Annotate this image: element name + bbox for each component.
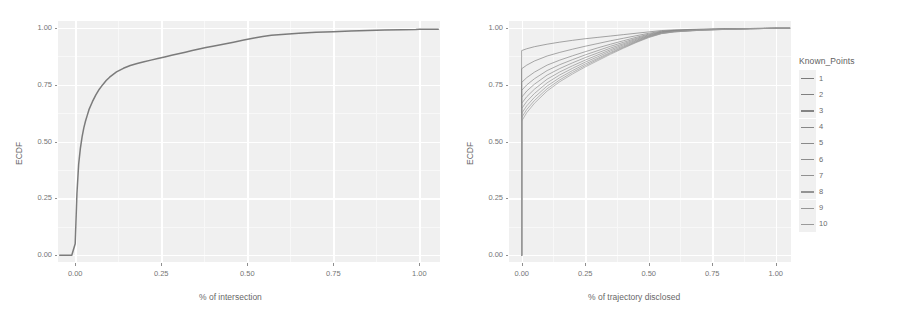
y-tick-mark xyxy=(55,198,58,199)
legend-key-swatch xyxy=(799,86,816,102)
legend-item-label: 2 xyxy=(819,90,823,99)
y-axis-title-right: ECDF xyxy=(465,142,475,165)
x-tick-label: 0.50 xyxy=(634,269,664,278)
y-tick-label: 0.75 xyxy=(477,80,503,89)
x-tick-mark xyxy=(161,263,162,266)
data-curve xyxy=(522,28,790,255)
legend-item[interactable]: 3 xyxy=(799,102,855,118)
legend-item[interactable]: 10 xyxy=(799,216,855,232)
legend-items: 12345678910 xyxy=(799,70,855,232)
legend-item[interactable]: 8 xyxy=(799,183,855,199)
legend-line-icon xyxy=(801,127,814,128)
x-tick-label: 0.50 xyxy=(232,269,262,278)
x-tick-mark xyxy=(247,263,248,266)
legend-item-label: 7 xyxy=(819,171,823,180)
y-tick-label: 0.00 xyxy=(477,250,503,259)
x-tick-label: 0.75 xyxy=(318,269,348,278)
y-tick-mark xyxy=(506,255,509,256)
legend-key-swatch xyxy=(799,183,816,199)
legend-item-label: 4 xyxy=(819,122,823,131)
data-curve xyxy=(522,28,790,255)
x-tick-label: 0.00 xyxy=(60,269,90,278)
x-tick-mark xyxy=(585,263,586,266)
y-tick-mark xyxy=(506,85,509,86)
legend-line-icon xyxy=(801,208,814,209)
legend: Known_Points 12345678910 xyxy=(799,56,855,232)
x-tick-label: 0.25 xyxy=(570,269,600,278)
x-tick-label: 0.00 xyxy=(507,269,537,278)
x-tick-label: 1.00 xyxy=(761,269,791,278)
data-curve xyxy=(522,28,790,255)
legend-key-swatch xyxy=(799,167,816,183)
x-tick-mark xyxy=(522,263,523,266)
data-curve xyxy=(522,28,790,255)
legend-line-icon xyxy=(801,143,814,144)
data-curve xyxy=(522,28,790,255)
legend-key-swatch xyxy=(799,102,816,118)
y-tick-mark xyxy=(55,255,58,256)
y-tick-mark xyxy=(55,85,58,86)
data-curve xyxy=(522,28,790,255)
legend-item-label: 6 xyxy=(819,155,823,164)
legend-key-swatch xyxy=(799,216,816,232)
legend-line-icon xyxy=(801,94,814,95)
legend-line-icon xyxy=(801,159,814,160)
legend-item[interactable]: 7 xyxy=(799,167,855,183)
x-tick-label: 0.75 xyxy=(697,269,727,278)
x-tick-mark xyxy=(776,263,777,266)
x-tick-mark xyxy=(333,263,334,266)
legend-item[interactable]: 9 xyxy=(799,200,855,216)
x-tick-label: 0.25 xyxy=(146,269,176,278)
legend-line-icon xyxy=(801,191,814,192)
legend-item[interactable]: 4 xyxy=(799,119,855,135)
x-tick-mark xyxy=(419,263,420,266)
x-tick-label: 1.00 xyxy=(404,269,434,278)
legend-title: Known_Points xyxy=(799,56,855,66)
y-tick-label: 1.00 xyxy=(477,23,503,32)
legend-key-swatch xyxy=(799,119,816,135)
y-tick-mark xyxy=(506,142,509,143)
ecdf-figure: 0.000.250.500.751.000.000.250.500.751.00… xyxy=(0,0,902,317)
data-curve xyxy=(522,28,790,255)
y-tick-label: 1.00 xyxy=(26,23,52,32)
x-tick-mark xyxy=(649,263,650,266)
y-tick-label: 0.00 xyxy=(26,250,52,259)
y-tick-mark xyxy=(55,28,58,29)
legend-item[interactable]: 6 xyxy=(799,151,855,167)
panel-right: 0.000.250.500.751.000.000.250.500.751.00… xyxy=(451,0,902,317)
data-curve xyxy=(522,28,790,255)
legend-item-label: 9 xyxy=(819,203,823,212)
legend-item-label: 10 xyxy=(819,219,827,228)
x-axis-title-left: % of intersection xyxy=(199,292,262,302)
x-axis-title-right: % of trajectory disclosed xyxy=(588,292,680,302)
legend-item-label: 5 xyxy=(819,138,823,147)
y-tick-label: 0.25 xyxy=(26,193,52,202)
y-tick-mark xyxy=(55,142,58,143)
data-curve xyxy=(522,28,790,255)
data-curve xyxy=(522,28,790,255)
y-tick-mark xyxy=(506,28,509,29)
legend-line-icon xyxy=(801,110,814,111)
legend-key-swatch xyxy=(799,135,816,151)
data-curve xyxy=(60,29,439,255)
figure-root: 0.000.250.500.751.000.000.250.500.751.00… xyxy=(0,0,902,317)
y-tick-label: 0.50 xyxy=(477,137,503,146)
legend-item[interactable]: 2 xyxy=(799,86,855,102)
legend-item[interactable]: 1 xyxy=(799,70,855,86)
legend-item-label: 3 xyxy=(819,106,823,115)
y-axis-title-left: ECDF xyxy=(14,142,24,165)
legend-key-swatch xyxy=(799,200,816,216)
y-tick-label: 0.75 xyxy=(26,80,52,89)
y-tick-mark xyxy=(506,198,509,199)
y-tick-label: 0.50 xyxy=(26,137,52,146)
x-tick-mark xyxy=(712,263,713,266)
legend-line-icon xyxy=(801,224,814,225)
legend-line-icon xyxy=(801,78,814,79)
legend-line-icon xyxy=(801,175,814,176)
legend-item-label: 8 xyxy=(819,187,823,196)
legend-key-swatch xyxy=(799,70,816,86)
legend-item[interactable]: 5 xyxy=(799,135,855,151)
legend-item-label: 1 xyxy=(819,74,823,83)
y-tick-label: 0.25 xyxy=(477,193,503,202)
legend-key-swatch xyxy=(799,151,816,167)
